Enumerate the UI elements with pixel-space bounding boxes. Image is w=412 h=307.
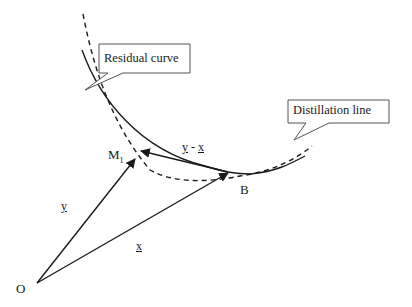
vector-diff-sep: -	[188, 140, 198, 154]
distillation-line-label: Distillation line	[293, 104, 371, 117]
vector-y-label: y	[61, 200, 67, 212]
point-m1-label: M1	[108, 148, 124, 165]
point-b-label: B	[240, 183, 249, 196]
diagram-canvas	[0, 0, 412, 307]
vector-diff-x: x	[198, 140, 204, 154]
vector-y-arrow	[37, 159, 135, 283]
residual-curve-label: Residual curve	[104, 52, 179, 65]
point-origin-label: O	[16, 282, 25, 295]
vector-x-arrow	[37, 173, 228, 283]
vector-diff-arrow	[141, 151, 228, 172]
point-m1-subscript: 1	[120, 156, 124, 165]
vector-diff-label: y - x	[182, 141, 204, 153]
point-m1-letter: M	[108, 147, 120, 162]
vector-x-label: x	[136, 240, 142, 252]
